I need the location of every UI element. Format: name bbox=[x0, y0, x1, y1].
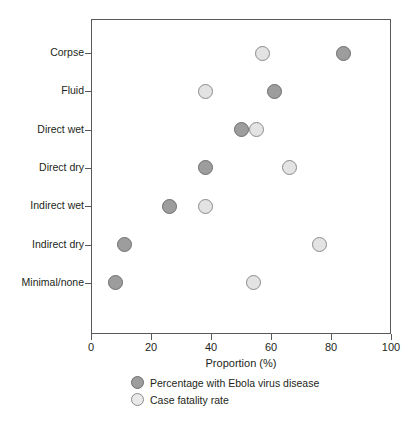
legend-label: Percentage with Ebola virus disease bbox=[150, 377, 319, 389]
x-axis-tick-label: 60 bbox=[251, 341, 291, 353]
x-axis-tick bbox=[271, 334, 272, 340]
y-axis-category-label: Direct wet bbox=[0, 124, 84, 135]
x-axis-tick bbox=[211, 334, 212, 340]
data-point bbox=[117, 237, 132, 252]
y-axis-category-label: Fluid bbox=[0, 85, 84, 96]
x-axis-tick bbox=[331, 334, 332, 340]
data-point bbox=[246, 275, 261, 290]
x-axis-tick-label: 20 bbox=[131, 341, 171, 353]
y-axis-category-label: Minimal/none bbox=[0, 277, 84, 288]
data-point bbox=[249, 122, 264, 137]
data-point bbox=[198, 199, 213, 214]
x-axis-tick bbox=[91, 334, 92, 340]
data-point bbox=[282, 160, 297, 175]
chart-legend: Percentage with Ebola virus disease Case… bbox=[131, 375, 411, 409]
y-axis-tick bbox=[85, 91, 91, 92]
y-axis-tick bbox=[85, 168, 91, 169]
data-point bbox=[108, 275, 123, 290]
y-axis-category-label: Indirect dry bbox=[0, 239, 84, 250]
x-axis-tick-label: 80 bbox=[311, 341, 351, 353]
y-axis-tick bbox=[85, 130, 91, 131]
legend-item-case-fatality-rate: Case fatality rate bbox=[131, 392, 411, 407]
y-axis-category-label: Direct dry bbox=[0, 162, 84, 173]
data-point bbox=[198, 160, 213, 175]
data-point bbox=[255, 46, 270, 61]
x-axis-tick-label: 100 bbox=[371, 341, 411, 353]
legend-swatch-light-circle-icon bbox=[131, 393, 144, 406]
legend-item-percentage-ebola: Percentage with Ebola virus disease bbox=[131, 375, 411, 390]
data-point bbox=[312, 237, 327, 252]
x-axis-tick bbox=[391, 334, 392, 340]
y-axis-tick bbox=[85, 245, 91, 246]
x-axis-tick-label: 0 bbox=[71, 341, 111, 353]
y-axis-tick bbox=[85, 206, 91, 207]
x-axis-tick-label: 40 bbox=[191, 341, 231, 353]
caption-sliver bbox=[4, 424, 413, 433]
x-axis-tick bbox=[151, 334, 152, 340]
data-point bbox=[336, 46, 351, 61]
y-axis-category-label: Indirect wet bbox=[0, 200, 84, 211]
data-point bbox=[267, 84, 282, 99]
figure-scatter-chart: CorpseFluidDirect wetDirect dryIndirect … bbox=[0, 0, 417, 433]
data-point bbox=[162, 199, 177, 214]
y-axis-tick bbox=[85, 53, 91, 54]
y-axis-category-label: Corpse bbox=[0, 47, 84, 58]
legend-swatch-dark-circle-icon bbox=[131, 376, 144, 389]
plot-area bbox=[91, 19, 391, 334]
legend-label: Case fatality rate bbox=[150, 394, 229, 406]
data-point bbox=[198, 84, 213, 99]
data-point bbox=[234, 122, 249, 137]
x-axis-title: Proportion (%) bbox=[91, 357, 391, 369]
y-axis-tick bbox=[85, 283, 91, 284]
